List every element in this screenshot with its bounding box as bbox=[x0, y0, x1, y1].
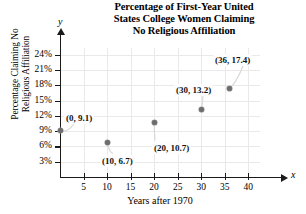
data-point bbox=[58, 128, 63, 133]
chart-figure: Percentage of First-Year United States C… bbox=[0, 0, 306, 214]
data-point bbox=[227, 86, 232, 91]
data-point-label: (20, 10.7) bbox=[152, 142, 191, 154]
data-point bbox=[199, 107, 204, 112]
data-point bbox=[152, 120, 157, 125]
data-point bbox=[105, 140, 110, 145]
leader-line-layer bbox=[0, 0, 306, 214]
leader-line bbox=[154, 122, 155, 140]
leader-line bbox=[229, 66, 243, 88]
data-point-label: (0, 9.1) bbox=[64, 112, 94, 124]
data-point-label: (10, 6.7) bbox=[100, 155, 135, 167]
data-point-label: (30, 13.2) bbox=[174, 84, 213, 96]
data-point-label: (36, 17.4) bbox=[213, 54, 252, 66]
